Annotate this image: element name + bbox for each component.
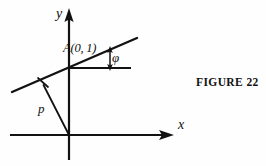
- angle-phi-label: φ: [112, 50, 119, 66]
- perpendicular-segment-p: [44, 85, 70, 135]
- distance-p-label: p: [38, 101, 45, 117]
- figure-caption: FIGURE 22: [196, 76, 259, 88]
- figure-container: y x A(0, 1) φ p FIGURE 22: [0, 0, 266, 166]
- x-axis-label: x: [178, 117, 184, 133]
- y-axis-label: y: [56, 6, 62, 22]
- point-a-label: A(0, 1): [63, 41, 96, 56]
